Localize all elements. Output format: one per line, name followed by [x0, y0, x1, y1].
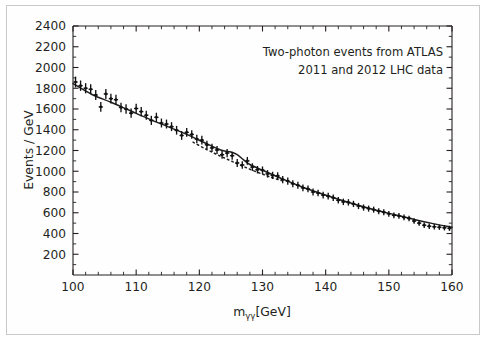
x-tick-label: 130 — [251, 280, 274, 294]
data-point — [382, 209, 386, 215]
data-point — [321, 192, 325, 199]
y-tick-label: 800 — [43, 185, 66, 199]
data-point — [316, 190, 320, 197]
data-point — [235, 159, 239, 167]
x-tick-label: 160 — [440, 280, 463, 294]
y-tick-label: 400 — [43, 227, 66, 241]
y-tick-label: 200 — [43, 248, 66, 262]
x-tick-label: 100 — [61, 280, 84, 294]
data-point-markers — [73, 77, 451, 231]
data-point — [387, 211, 391, 217]
signal-plus-background-fit-curve — [73, 84, 452, 228]
x-axis-tick-labels: 100110120130140150160 — [61, 280, 463, 294]
data-point — [94, 90, 98, 100]
data-point — [104, 89, 108, 99]
data-point — [225, 149, 229, 157]
y-tick-label: 1800 — [35, 82, 66, 96]
annotation-line-1: Two-photon events from ATLAS — [262, 45, 443, 59]
data-point — [195, 135, 199, 144]
data-point — [356, 203, 360, 209]
y-axis-title: Events / GeV — [21, 110, 36, 190]
data-point — [422, 223, 426, 228]
data-point — [149, 116, 153, 125]
data-point — [407, 216, 411, 222]
y-axis-ticks — [73, 26, 452, 254]
data-point — [169, 122, 173, 131]
data-point — [205, 141, 209, 149]
data-point — [346, 199, 350, 205]
data-point — [361, 204, 365, 210]
x-axis-title: mγγ[GeV] — [233, 304, 291, 321]
data-point — [286, 178, 290, 185]
annotation-line-2: 2011 and 2012 LHC data — [298, 63, 443, 77]
y-tick-label: 1400 — [35, 123, 66, 137]
data-point — [377, 208, 381, 214]
data-point — [124, 104, 128, 113]
y-tick-label: 2200 — [35, 40, 66, 54]
data-point — [159, 119, 163, 128]
data-point — [372, 207, 376, 213]
x-axis-title-units: [GeV] — [255, 304, 290, 319]
y-tick-label: 1600 — [35, 102, 66, 116]
data-point — [291, 180, 295, 187]
data-point — [326, 193, 330, 200]
x-axis-title-symbol: m — [233, 304, 245, 319]
data-point — [260, 166, 264, 173]
x-axis-title-subscript: γγ — [245, 311, 255, 321]
data-point — [281, 176, 285, 183]
data-point — [397, 213, 401, 219]
data-point — [392, 212, 396, 218]
data-point — [99, 102, 103, 112]
data-point — [331, 194, 335, 200]
data-point — [119, 103, 123, 113]
data-point — [271, 172, 275, 179]
x-tick-label: 120 — [188, 280, 211, 294]
data-point — [427, 224, 431, 229]
data-point — [200, 136, 204, 145]
y-axis-tick-labels: 2004006008001000120014001600180020002200… — [35, 19, 66, 261]
data-point — [134, 104, 138, 113]
data-point — [296, 182, 300, 189]
data-point — [367, 206, 371, 212]
y-tick-label: 2400 — [35, 19, 66, 33]
x-tick-label: 110 — [125, 280, 148, 294]
data-point — [174, 126, 178, 135]
figure-root: 2004006008001000120014001600180020002200… — [0, 0, 488, 343]
data-point — [240, 161, 244, 169]
y-tick-label: 600 — [43, 206, 66, 220]
data-point — [306, 185, 310, 192]
y-tick-label: 2000 — [35, 61, 66, 75]
x-tick-label: 140 — [314, 280, 337, 294]
data-point — [402, 215, 406, 221]
y-tick-label: 1200 — [35, 144, 66, 158]
data-point — [154, 113, 158, 122]
data-point — [351, 201, 355, 207]
chart-canvas: 2004006008001000120014001600180020002200… — [0, 0, 488, 343]
y-tick-label: 1000 — [35, 165, 66, 179]
data-point — [301, 184, 305, 191]
x-tick-label: 150 — [377, 280, 400, 294]
